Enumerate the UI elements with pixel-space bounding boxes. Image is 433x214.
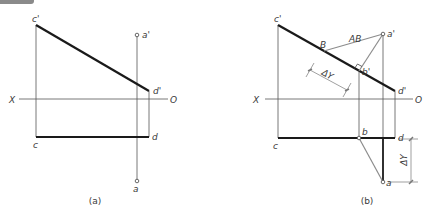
caption-a: (a) [89,196,102,206]
label-a-prime-a: a' [142,30,150,40]
label-a-a: a [133,184,139,194]
dimension-label-oblique: ΔY [319,67,336,83]
label-c-a: c [33,140,38,150]
label-a-b: a [386,178,392,188]
point-a-b [381,180,385,184]
label-c-prime-b: c' [274,14,281,24]
label-d-prime-b: d' [398,86,406,96]
point-a-prime-b [381,32,385,36]
line-b-a-horizontal [359,138,383,182]
line-c-prime-d-prime-b [278,25,395,91]
caption-b: (b) [361,196,374,206]
label-d-a: d [152,132,158,142]
label-d-b: d [398,133,404,143]
label-b-b: b [362,127,368,137]
line-c-prime-d-prime-a [36,25,149,91]
label-B-b: B [320,40,326,50]
label-b-prime-b: b' [362,67,370,77]
axis-label-o-b: O [415,95,422,105]
axis-label-x-a: X [8,95,16,105]
label-a-prime-b: a' [387,29,395,39]
axis-label-x-b: X [252,95,260,105]
label-c-prime-a: c' [32,14,39,24]
point-a-a [135,179,139,183]
label-c-b: c [273,141,278,151]
axis-label-o-a: O [170,95,177,105]
point-b-b [357,136,361,140]
label-AB-b: AB [348,34,361,44]
panel-a: c' d' c d a' a X O (a) [8,14,177,206]
point-a-prime-a [135,33,139,37]
label-d-prime-a: d' [153,86,161,96]
projection-diagram: c' d' c d a' a X O (a) [0,0,433,214]
dimension-label-vertical: ΔY [399,153,409,167]
panel-b: ΔY ΔY c' d' c d a' a b' b B AB X O (b) [252,14,422,206]
